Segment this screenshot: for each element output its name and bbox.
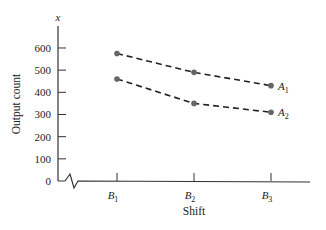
x-ticks: B1B2B3 [108,173,273,204]
data-point [114,76,120,82]
x-tick-label: B3 [262,189,273,204]
y-axis-symbol: x [55,11,61,23]
data-point [191,101,197,107]
y-axis-title: Output count [10,73,23,134]
data-point [268,109,274,115]
y-tick-label: 100 [35,153,52,165]
series-label-a1: A1 [277,80,289,95]
x-axis-title: Shift [183,205,206,217]
y-tick-label: 200 [35,131,52,143]
y-tick-label: 0 [46,175,52,187]
series-line-a2 [117,79,271,112]
series-label-a2: A2 [277,106,289,121]
x-axis-with-break [58,174,310,188]
y-tick-label: 500 [35,64,52,76]
y-tick-label: 300 [35,108,52,120]
y-tick-label: 600 [35,42,52,54]
data-point [191,70,197,76]
x-tick-label: B2 [185,189,196,204]
y-tick-label: 400 [35,86,52,98]
series-group: A1A2 [114,51,289,122]
data-point [114,51,120,57]
data-point [268,83,274,89]
y-ticks: 0100200300400500600 [35,42,67,187]
interaction-plot: x 0100200300400500600 B1B2B3 Output coun… [0,0,326,230]
x-tick-label: B1 [108,189,119,204]
